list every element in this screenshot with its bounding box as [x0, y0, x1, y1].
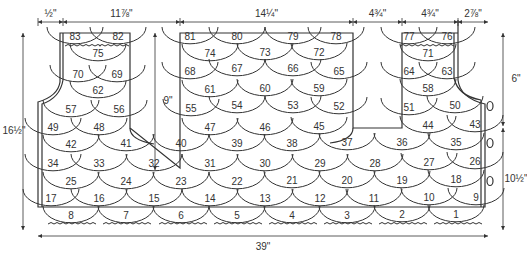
height-label: 16½" [2, 125, 25, 136]
scallop-number: 59 [313, 83, 325, 94]
scallop-number: 67 [231, 63, 243, 74]
dimension-label: ½" [45, 8, 57, 19]
width-label: 39" [256, 241, 271, 252]
scallop-number: 73 [259, 47, 271, 58]
height-label: 6" [511, 73, 521, 84]
scallop-number: 61 [204, 84, 216, 95]
scallop-number: 17 [45, 193, 57, 204]
scallop-number: 7 [123, 210, 129, 221]
button-loop-icon [487, 102, 493, 111]
scallop-number: 66 [287, 63, 299, 74]
scallop-number: 28 [369, 158, 381, 169]
dimension-label: 4¾" [421, 8, 439, 19]
scallop-number: 77 [403, 31, 415, 42]
scallop-number: 37 [341, 137, 353, 148]
scallop-number: 26 [469, 156, 481, 167]
scallop-number: 58 [422, 83, 434, 94]
scallop-number: 30 [259, 158, 271, 169]
scallop-number: 20 [341, 175, 353, 186]
scallop-number: 70 [72, 69, 84, 80]
scallop-number: 27 [423, 157, 435, 168]
scallop-number: 39 [231, 138, 243, 149]
scallop-number: 11 [369, 193, 380, 204]
scallop-number: 50 [449, 100, 461, 111]
scallop-number: 24 [120, 176, 132, 187]
scallop-number: 69 [111, 69, 123, 80]
scallop-number: 22 [231, 176, 243, 187]
scallop-number: 68 [184, 66, 196, 77]
scallop-number: 80 [231, 31, 243, 42]
scallop-number: 72 [313, 47, 325, 58]
scallop-number: 45 [313, 121, 325, 132]
scallop-number: 83 [69, 31, 81, 42]
scallop-number: 57 [65, 104, 77, 115]
scallop-number: 18 [450, 174, 462, 185]
button-loop-icon [487, 139, 493, 148]
scallop-number: 29 [314, 158, 326, 169]
scallop-number: 41 [120, 138, 132, 149]
scallop-number: 14 [204, 193, 216, 204]
scallop-number: 4 [289, 210, 295, 221]
scallop-number: 34 [47, 158, 59, 169]
scallop-number: 9 [473, 192, 479, 203]
ruffle-edge [379, 223, 427, 225]
scallop-number: 42 [65, 139, 77, 150]
scallop-number: 46 [259, 122, 271, 133]
scallop-number: 51 [403, 102, 415, 113]
scallop-number: 49 [47, 122, 59, 133]
scallop-number: 16 [93, 193, 105, 204]
height-label: 10½" [504, 173, 527, 184]
scallop-number: 3 [344, 210, 350, 221]
scallop-number: 10 [423, 192, 435, 203]
scallop-number: 33 [93, 158, 105, 169]
scallop-number: 43 [469, 119, 481, 130]
ruffle-edge [434, 223, 482, 225]
scallop-number: 31 [204, 158, 216, 169]
scallop-number: 74 [204, 48, 216, 59]
scallop-number: 76 [441, 31, 453, 42]
scallop-number: 35 [450, 137, 462, 148]
scallop-number: 1 [453, 209, 459, 220]
scallop-number: 19 [396, 175, 408, 186]
scallop-number: 53 [287, 100, 299, 111]
dimension-label: 2⅞" [464, 8, 482, 19]
dimension-label: 11⅞" [110, 8, 133, 19]
height-label: 9" [163, 95, 173, 106]
scallop-number: 75 [92, 48, 104, 59]
scallop-number: 2 [399, 209, 405, 220]
scallop-number: 44 [422, 120, 434, 131]
scallop-number: 64 [403, 66, 415, 77]
scallop-number: 12 [314, 193, 326, 204]
ruffle-edge [430, 45, 454, 47]
scallop-number: 48 [93, 122, 105, 133]
scallop-number: 38 [286, 138, 298, 149]
dimension-label: 14¼" [255, 8, 278, 19]
dimension-label: 4¾" [369, 8, 387, 19]
scallop-number: 13 [259, 193, 271, 204]
scallop-number: 40 [175, 138, 187, 149]
scallop-number: 62 [92, 85, 104, 96]
scallop-number: 82 [112, 31, 124, 42]
scallop-number: 60 [259, 83, 271, 94]
scallop-number: 15 [148, 193, 160, 204]
ruffle-edge [99, 45, 129, 47]
scallop-number: 6 [178, 210, 184, 221]
button-loop-icon [487, 177, 493, 186]
scallop-number: 21 [286, 175, 298, 186]
scallop-number: 56 [113, 104, 125, 115]
scallop-number: 71 [422, 48, 434, 59]
vest-schematic: 8382818079787776757473727170696867666564… [0, 0, 527, 254]
scallop-number: 32 [148, 158, 160, 169]
scallop-number: 65 [333, 66, 345, 77]
schematic-canvas: 8382818079787776757473727170696867666564… [0, 0, 527, 254]
scallop-number: 55 [185, 103, 197, 114]
scallop-number: 81 [184, 31, 196, 42]
scallop-number: 36 [396, 137, 408, 148]
scallop-number: 63 [441, 66, 453, 77]
scallop-number: 23 [175, 176, 187, 187]
scallop-number: 78 [330, 31, 342, 42]
button-loops [487, 102, 493, 186]
ruffle-edge [400, 45, 430, 47]
scallop-number: 79 [287, 31, 299, 42]
scallop-number: 54 [231, 100, 243, 111]
